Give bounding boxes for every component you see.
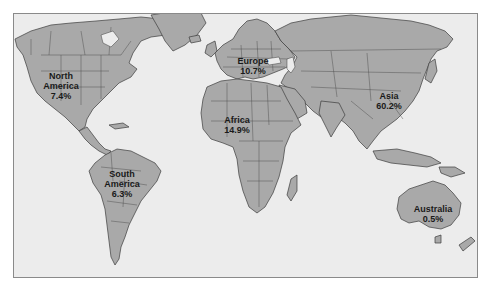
- label-value: 60.2%: [376, 101, 402, 111]
- label-africa: Africa 14.9%: [224, 115, 250, 135]
- world-map: [14, 14, 477, 277]
- label-name-line2: America: [43, 81, 79, 91]
- map-frame: North America 7.4% Europe 10.7% Africa 1…: [13, 13, 478, 278]
- label-name: South: [104, 169, 140, 179]
- label-name: Australia: [414, 204, 453, 214]
- label-name: Europe: [237, 56, 268, 66]
- label-value: 10.7%: [237, 66, 268, 76]
- label-value: 0.5%: [414, 214, 453, 224]
- label-name: Africa: [224, 115, 250, 125]
- label-asia: Asia 60.2%: [376, 91, 402, 111]
- label-name-line2: America: [104, 179, 140, 189]
- central-america: [79, 127, 111, 155]
- new-zealand: [459, 237, 475, 251]
- continent-asia[interactable]: [275, 15, 453, 149]
- continent-africa[interactable]: [201, 79, 301, 213]
- label-europe: Europe 10.7%: [237, 56, 268, 76]
- label-value: 14.9%: [224, 125, 250, 135]
- continent-south-america[interactable]: [89, 149, 161, 265]
- label-value: 7.4%: [43, 91, 79, 101]
- tasmania: [435, 235, 441, 243]
- label-name: North: [43, 71, 79, 81]
- new-guinea: [439, 167, 465, 177]
- southeast-asia-islands: [373, 149, 441, 167]
- label-south-america: South America 6.3%: [104, 169, 140, 199]
- madagascar: [287, 175, 297, 201]
- caribbean: [109, 123, 129, 129]
- label-australia: Australia 0.5%: [414, 204, 453, 224]
- label-value: 6.3%: [104, 189, 140, 199]
- label-north-america: North America 7.4%: [43, 71, 79, 101]
- label-name: Asia: [376, 91, 402, 101]
- continent-north-america[interactable]: [15, 17, 171, 131]
